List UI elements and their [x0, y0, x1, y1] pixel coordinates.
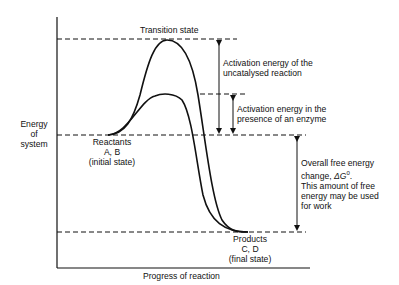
activation-enzyme-line-2: presence of an enzyme — [237, 114, 326, 124]
free-energy-change-label: Overall free energy change, ΔG0. This am… — [301, 158, 379, 211]
y-axis-label-line-2: of — [16, 129, 52, 139]
reactants-line-1: Reactants — [80, 137, 144, 147]
y-axis-label-line-3: system — [16, 139, 52, 149]
activation-uncatalysed-line-2: uncatalysed reaction — [223, 68, 313, 78]
delta-g-symbol: ΔG — [334, 171, 346, 181]
products-line-1: Products — [222, 234, 278, 244]
y-axis-label-line-1: Energy — [16, 119, 52, 129]
x-axis-label: Progress of reaction — [143, 271, 220, 281]
transition-state-label: Transition state — [140, 25, 198, 35]
activation-uncatalysed-line-1: Activation energy of the — [223, 58, 313, 68]
reactants-line-3: (initial state) — [80, 157, 144, 167]
activation-uncatalysed-label: Activation energy of the uncatalysed rea… — [223, 58, 313, 78]
activation-enzyme-label: Activation energy in the presence of an … — [237, 104, 326, 124]
reactants-label: Reactants A, B (initial state) — [80, 137, 144, 167]
free-energy-line-3: This amount of free — [301, 181, 379, 191]
products-line-3: (final state) — [222, 254, 278, 264]
y-axis-label: Energy of system — [16, 119, 52, 149]
free-energy-line-2: change, ΔG0. — [301, 168, 379, 181]
products-line-2: C, D — [222, 244, 278, 254]
free-energy-line-1: Overall free energy — [301, 158, 379, 168]
free-energy-line-2-suffix: . — [350, 171, 352, 181]
energy-diagram: Transition state Activation energy of th… — [0, 0, 399, 285]
products-label: Products C, D (final state) — [222, 234, 278, 264]
energy-diagram-svg — [0, 0, 399, 285]
free-energy-line-5: for work — [301, 201, 379, 211]
free-energy-line-4: energy may be used — [301, 191, 379, 201]
activation-enzyme-line-1: Activation energy in the — [237, 104, 326, 114]
reactants-line-2: A, B — [80, 147, 144, 157]
free-energy-line-2-prefix: change, — [301, 171, 334, 181]
